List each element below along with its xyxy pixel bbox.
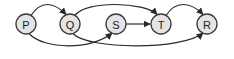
node-s: S	[106, 14, 126, 34]
node-label: P	[22, 19, 29, 31]
node-label: R	[203, 19, 211, 31]
node-label: S	[112, 19, 119, 31]
node-q: Q	[60, 14, 80, 34]
edge-q-to-r	[73, 33, 203, 46]
node-t: T	[151, 14, 171, 34]
edge-t-to-r	[166, 4, 203, 15]
edge-p-to-q	[31, 4, 66, 15]
directed-graph: PQSTR	[0, 0, 234, 59]
node-p: P	[16, 14, 36, 34]
edge-p-to-s	[29, 33, 112, 46]
node-label: T	[158, 19, 165, 31]
node-r: R	[197, 14, 217, 34]
node-label: Q	[66, 19, 75, 31]
nodes: PQSTR	[16, 14, 217, 34]
